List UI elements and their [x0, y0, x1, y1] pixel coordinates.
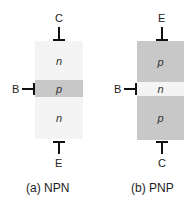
- pnp-emitter-region: p: [137, 41, 184, 82]
- npn-collector-label: C: [55, 12, 63, 24]
- npn-base-region: p: [35, 80, 83, 97]
- npn-base-lead: [22, 88, 33, 90]
- region-label: p: [157, 56, 163, 68]
- region-label: n: [56, 55, 62, 67]
- pnp-emitter-label: E: [158, 12, 165, 24]
- pnp-base-label: B: [114, 83, 121, 95]
- pnp-caption: (b) PNP: [131, 181, 174, 195]
- npn-base-label: B: [12, 83, 19, 95]
- pnp-base-region: n: [137, 82, 184, 96]
- pnp-emitter-lead: [161, 27, 163, 39]
- region-label: p: [157, 112, 163, 124]
- pnp-collector-label: C: [158, 157, 166, 169]
- npn-emitter-label: E: [55, 157, 62, 169]
- npn-emitter-region: n: [35, 97, 83, 139]
- npn-emitter-lead: [58, 141, 60, 154]
- npn-caption: (a) NPN: [26, 181, 69, 195]
- npn-collector-region: n: [35, 41, 83, 80]
- npn-collector-lead: [58, 27, 60, 39]
- region-label: n: [56, 112, 62, 124]
- pnp-collector-region: p: [137, 96, 184, 140]
- pnp-collector-lead: [161, 141, 163, 154]
- region-label: p: [56, 83, 62, 95]
- npn-base-contact: [33, 83, 35, 95]
- pnp-base-contact: [135, 83, 137, 95]
- region-label: n: [157, 83, 163, 95]
- pnp-base-lead: [124, 88, 135, 90]
